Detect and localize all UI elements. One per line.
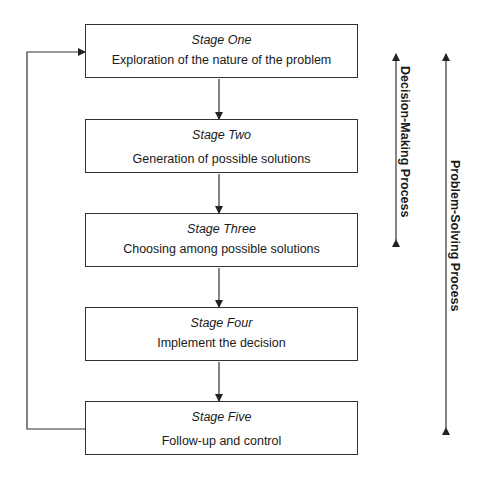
stage-title: Stage Five [86, 410, 357, 424]
stage-description: Choosing among possible solutions [86, 242, 357, 256]
stage-one-box: Stage One Exploration of the nature of t… [85, 24, 358, 78]
stage-title: Stage Three [86, 222, 357, 236]
stage-description: Generation of possible solutions [86, 152, 357, 166]
stage-title: Stage Two [86, 128, 357, 142]
stage-description: Exploration of the nature of the problem [86, 53, 357, 67]
stage-description: Implement the decision [86, 336, 357, 350]
problem-solving-label: Problem-Solving Process [448, 160, 462, 311]
stage-title: Stage One [86, 33, 357, 47]
stage-three-box: Stage Three Choosing among possible solu… [85, 213, 358, 267]
decision-making-label: Decision-Making Process [398, 66, 412, 217]
stage-two-box: Stage Two Generation of possible solutio… [85, 119, 358, 173]
feedback-loop-arrow [27, 52, 85, 429]
stage-four-box: Stage Four Implement the decision [85, 307, 358, 361]
stage-five-box: Stage Five Follow-up and control [85, 401, 358, 455]
stage-description: Follow-up and control [86, 434, 357, 448]
stage-title: Stage Four [86, 316, 357, 330]
